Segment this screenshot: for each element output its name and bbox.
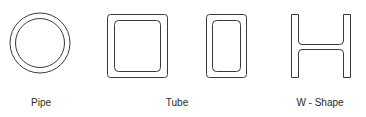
cross-section-diagram: Pipe Tube W - Shape [0, 0, 366, 117]
tube-square-shape [108, 15, 168, 78]
tube-label: Tube [166, 97, 188, 108]
w-shape-label: W - Shape [296, 97, 343, 108]
w-shape [292, 15, 351, 78]
tube-rect-shape [207, 15, 247, 78]
pipe-label: Pipe [31, 97, 51, 108]
pipe-shape [10, 13, 70, 73]
